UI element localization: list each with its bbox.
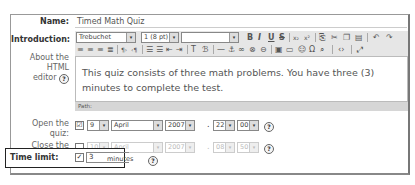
- bold-icon[interactable]: B: [247, 33, 253, 42]
- toolbar-divider: [351, 45, 352, 54]
- nolink-icon[interactable]: ⊖: [260, 45, 267, 54]
- toolbar-divider: [117, 45, 118, 54]
- quiz-settings-panel: Name: Timed Math Quiz Introduction: Abou…: [10, 14, 410, 175]
- open-month-select[interactable]: April▾: [111, 120, 163, 131]
- help-icon[interactable]: ?: [264, 144, 274, 154]
- underline-icon[interactable]: U: [268, 33, 275, 42]
- search-replace-icon[interactable]: ⌕: [320, 45, 324, 54]
- unordered-list-icon[interactable]: ☰: [156, 45, 163, 54]
- unlink-icon[interactable]: ⊗: [249, 45, 256, 54]
- bg-color-icon[interactable]: ℬ: [202, 45, 208, 54]
- indent-icon[interactable]: ⇥: [176, 45, 183, 54]
- undo-icon[interactable]: ↶: [373, 33, 380, 42]
- outdent-icon[interactable]: ⇤: [166, 45, 173, 54]
- clean-word-icon[interactable]: ⎘: [319, 33, 325, 42]
- special-char-icon[interactable]: Ω: [309, 45, 315, 54]
- chevron-down-icon: ▾: [249, 121, 258, 130]
- toolbar-divider: [187, 45, 188, 54]
- close-hour-select[interactable]: 08▾: [213, 142, 235, 153]
- toolbar-divider: [213, 45, 214, 54]
- paste-icon[interactable]: ▤: [355, 33, 363, 42]
- chevron-down-icon: ▾: [249, 143, 258, 152]
- html-source-icon[interactable]: ‹›: [338, 45, 344, 54]
- open-day-select[interactable]: 9▾: [87, 120, 109, 131]
- chevron-down-icon: ▾: [185, 121, 194, 130]
- toolbar-divider: [289, 33, 290, 42]
- minutes-unit-label: minutes: [107, 155, 133, 163]
- chevron-down-icon: ▾: [153, 143, 162, 152]
- justify-icon[interactable]: ≣: [107, 45, 114, 54]
- open-quiz-enable-checkbox[interactable]: ☑: [75, 121, 84, 130]
- toolbar-divider: [142, 45, 143, 54]
- label-line: quiz:: [11, 129, 69, 139]
- anchor-icon[interactable]: ⚓: [228, 45, 235, 54]
- ordered-list-icon[interactable]: ☰: [146, 45, 153, 54]
- align-left-icon[interactable]: ≡: [77, 45, 84, 54]
- name-label: Name:: [13, 17, 69, 26]
- cut-icon[interactable]: ✂: [331, 33, 338, 42]
- redo-icon[interactable]: ↷: [386, 33, 393, 42]
- strikethrough-icon[interactable]: S: [279, 33, 285, 42]
- align-center-icon[interactable]: ≡: [87, 45, 94, 54]
- smiley-icon[interactable]: ☺: [298, 45, 306, 54]
- editor-toolbar-row2: ≡ ≡ ≡ ≣ ¶› ‹¶ ☰ ☰ ⇤ ⇥ T ℬ — ⚓ ∞ ⊗ ⊖ ▣ ▭ …: [75, 43, 408, 56]
- editor-path-bar: Path:: [75, 102, 408, 111]
- chevron-down-icon: ▾: [99, 121, 108, 130]
- chevron-down-icon: ▾: [169, 33, 178, 42]
- image-icon[interactable]: ▣: [275, 45, 283, 54]
- font-family-select[interactable]: Trebuchet▾: [76, 32, 136, 43]
- help-label-line: editor ?: [11, 73, 69, 83]
- open-year-select[interactable]: 2007▾: [165, 120, 195, 131]
- table-icon[interactable]: ▭: [286, 45, 294, 54]
- help-icon[interactable]: ?: [264, 122, 274, 132]
- open-quiz-label: Open the quiz:: [11, 119, 69, 139]
- open-minute-select[interactable]: 00▾: [237, 120, 259, 131]
- html-editor-content[interactable]: This quiz consists of three math problem…: [75, 56, 408, 102]
- align-right-icon[interactable]: ≡: [97, 45, 104, 54]
- time-separator: .: [207, 142, 210, 151]
- introduction-label: Introduction:: [11, 35, 69, 44]
- superscript-icon[interactable]: x²: [304, 33, 310, 42]
- fullscreen-icon[interactable]: ⤢: [357, 45, 363, 54]
- toolbar-divider: [332, 45, 333, 54]
- hr-icon[interactable]: —: [217, 45, 225, 54]
- toolbar-divider: [315, 33, 316, 42]
- name-input[interactable]: Timed Math Quiz: [75, 16, 407, 28]
- toolbar-divider: [367, 33, 368, 42]
- chevron-down-icon: ▾: [153, 121, 162, 130]
- paragraph-style-select[interactable]: ▾: [181, 32, 239, 43]
- time-limit-highlight: Time limit: ✓ 3 minutes: [5, 148, 125, 168]
- chevron-down-icon: ▾: [126, 33, 135, 42]
- chevron-down-icon: ▾: [229, 33, 238, 42]
- open-hour-select[interactable]: 22▾: [213, 120, 235, 131]
- time-separator: .: [207, 120, 210, 129]
- label-line: Open the: [11, 119, 69, 129]
- help-label-line: HTML: [11, 63, 69, 73]
- html-editor-help-label: About the HTML editor ?: [11, 53, 69, 83]
- text-color-icon[interactable]: T: [191, 45, 196, 54]
- close-minute-select[interactable]: 50▾: [237, 142, 259, 153]
- ltr-icon[interactable]: ¶›: [121, 45, 127, 54]
- italic-icon[interactable]: I: [258, 33, 261, 42]
- chevron-down-icon: ▾: [225, 143, 234, 152]
- help-icon[interactable]: ?: [59, 74, 69, 84]
- chevron-down-icon: ▾: [225, 121, 234, 130]
- copy-icon[interactable]: ❐: [343, 33, 350, 42]
- help-icon[interactable]: ?: [148, 156, 158, 166]
- time-limit-label: Time limit:: [10, 153, 64, 162]
- chevron-down-icon: ▾: [185, 143, 194, 152]
- link-icon[interactable]: ∞: [238, 45, 245, 54]
- font-size-select[interactable]: 1 (8 pt)▾: [141, 32, 179, 43]
- close-year-select[interactable]: 2007▾: [165, 142, 195, 153]
- toolbar-divider: [271, 45, 272, 54]
- rtl-icon[interactable]: ‹¶: [131, 45, 137, 54]
- subscript-icon[interactable]: x₂: [293, 33, 299, 42]
- time-limit-enable-checkbox[interactable]: ✓: [75, 153, 84, 162]
- help-label-line: About the: [11, 53, 69, 63]
